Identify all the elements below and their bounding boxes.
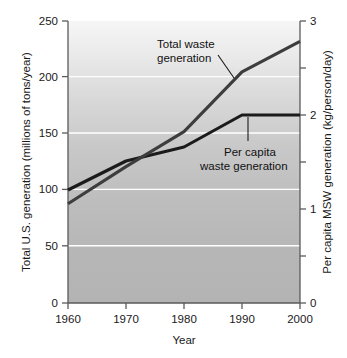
- annotation-per-capita-line2: waste generation: [199, 160, 288, 172]
- right-tick-label-3: 3: [310, 15, 316, 27]
- y-axis-title: Total U.S. generation (millions of tons/…: [20, 52, 32, 272]
- left-tick-label-50: 50: [45, 240, 58, 252]
- x-axis-ticks: [68, 303, 300, 309]
- left-tick-label-150: 150: [39, 127, 58, 139]
- annotation-total-waste-line2: generation: [157, 52, 211, 64]
- right-tick-label-0: 0: [310, 297, 316, 309]
- x-axis-title: Year: [172, 334, 195, 346]
- right-tick-label-1: 1: [310, 203, 316, 215]
- waste-generation-line-chart: 250 200 150 100 50 0 3 2 1 0: [0, 0, 347, 358]
- y2-axis-title: Per capita MSW generation (kg/person/day…: [321, 50, 333, 274]
- x-tick-label-1960: 1960: [55, 313, 81, 325]
- right-tick-label-2: 2: [310, 109, 316, 121]
- x-tick-label-1970: 1970: [113, 313, 139, 325]
- left-tick-label-0: 0: [52, 297, 58, 309]
- x-tick-label-1990: 1990: [229, 313, 255, 325]
- left-axis-tick-labels: 250 200 150 100 50 0: [39, 15, 58, 309]
- left-tick-label-200: 200: [39, 71, 58, 83]
- x-tick-label-2000: 2000: [287, 313, 313, 325]
- x-tick-label-1980: 1980: [171, 313, 197, 325]
- annotation-per-capita-line1: Per capita: [224, 146, 276, 158]
- x-axis-tick-labels: 1960 1970 1980 1990 2000: [55, 313, 313, 325]
- left-tick-label-250: 250: [39, 15, 58, 27]
- left-tick-label-100: 100: [39, 183, 58, 195]
- right-axis-tick-labels: 3 2 1 0: [310, 15, 316, 309]
- chart-figure: 250 200 150 100 50 0 3 2 1 0: [0, 0, 347, 358]
- annotation-total-waste-line1: Total waste: [157, 38, 215, 50]
- left-axis-ticks: [62, 21, 68, 303]
- right-axis-ticks: [300, 21, 306, 303]
